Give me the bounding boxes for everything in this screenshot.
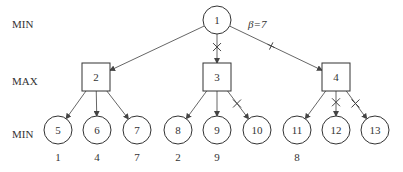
node-13: 13: [361, 116, 389, 144]
node-label: 13: [370, 124, 382, 136]
node-5: 5: [44, 116, 72, 144]
edge-1-2: [110, 26, 204, 70]
alpha-beta-tree-diagram: MIN MAX MIN β=7 12345678910111213 147298: [0, 0, 403, 172]
edge-4-11: [305, 91, 325, 119]
node-label: 5: [55, 124, 61, 136]
node-3: 3: [203, 63, 231, 91]
node-label: 8: [175, 124, 181, 136]
edge-2-5: [66, 91, 86, 119]
leaf-value-11: 8: [294, 151, 300, 163]
nodes-group: 12345678910111213: [44, 6, 389, 144]
node-label: 9: [214, 124, 220, 136]
level-label-max: MAX: [12, 75, 38, 87]
beta-annotation: β=7: [247, 18, 267, 30]
prune-cross-icon-3-10: [233, 100, 241, 108]
node-4: 4: [322, 63, 350, 91]
node-10: 10: [243, 116, 271, 144]
leaf-values-group: 147298: [55, 151, 300, 163]
leaf-value-9: 9: [214, 151, 220, 163]
node-9: 9: [203, 116, 231, 144]
leaf-value-6: 4: [94, 151, 100, 163]
leaf-value-8: 2: [175, 151, 181, 163]
edge-3-8: [186, 91, 206, 119]
node-label: 6: [94, 124, 100, 136]
node-label: 3: [214, 71, 220, 83]
node-2: 2: [82, 63, 110, 91]
prune-cross-icon-4-13: [351, 99, 359, 107]
node-label: 7: [134, 124, 140, 136]
node-label: 11: [292, 124, 303, 136]
node-label: 1: [214, 14, 220, 26]
node-7: 7: [123, 116, 151, 144]
node-11: 11: [283, 116, 311, 144]
leaf-value-5: 1: [55, 151, 61, 163]
level-label-min-top: MIN: [12, 18, 33, 30]
node-label: 10: [252, 124, 264, 136]
level-label-min-bottom: MIN: [12, 128, 33, 140]
edge-1-4: [230, 26, 322, 70]
leaf-value-7: 7: [134, 151, 140, 163]
node-6: 6: [83, 116, 111, 144]
node-1: 1: [203, 6, 231, 34]
node-8: 8: [164, 116, 192, 144]
edge-2-7: [107, 91, 129, 119]
node-12: 12: [322, 116, 350, 144]
node-label: 12: [331, 124, 342, 136]
node-label: 2: [93, 71, 99, 83]
node-label: 4: [333, 71, 339, 83]
plus-mark-icon-1-4: [268, 42, 275, 49]
